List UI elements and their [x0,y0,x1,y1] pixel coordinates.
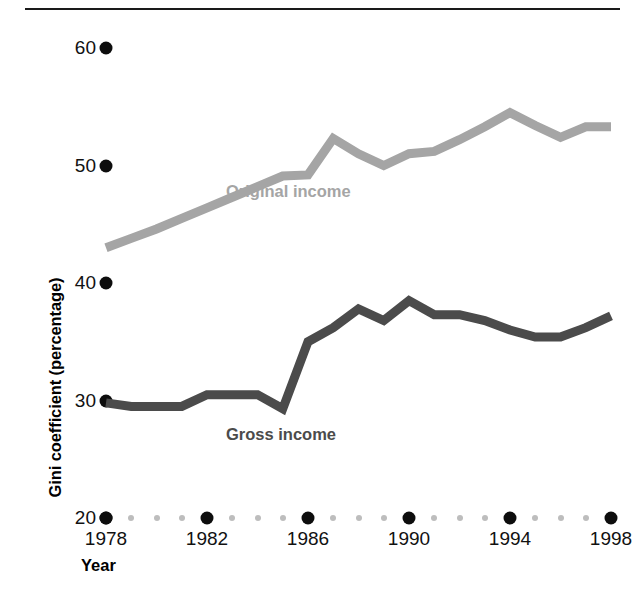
x-tick-label-1978: 1978 [66,528,146,550]
x-minor-dot-1988 [356,515,362,521]
x-tick-dot-1982 [201,512,214,525]
series-line-gross-income [106,301,611,409]
plot-area [0,0,632,598]
x-tick-label-1982: 1982 [167,528,247,550]
x-minor-dot-1993 [482,515,488,521]
x-tick-label-1986: 1986 [268,528,348,550]
x-tick-dot-1978 [100,512,113,525]
x-tick-label-1998: 1998 [571,528,632,550]
x-axis-title: Year [81,556,116,575]
x-minor-dot-1992 [457,515,463,521]
x-minor-dot-1983 [229,515,235,521]
x-tick-label-1990: 1990 [369,528,449,550]
x-minor-dot-1996 [558,515,564,521]
x-tick-dot-1990 [403,512,416,525]
chart-figure: Gini coefficient (percentage) 6050403020… [0,0,632,598]
x-minor-dot-1987 [330,515,336,521]
x-minor-dot-1989 [381,515,387,521]
series-label-gross-income: Gross income [226,425,336,444]
series-line-original-income [106,113,611,248]
x-tick-dot-1998 [605,512,618,525]
x-minor-dot-1995 [532,515,538,521]
x-minor-dot-1984 [255,515,261,521]
x-tick-label-1994: 1994 [470,528,550,550]
x-minor-dot-1980 [154,515,160,521]
x-tick-dot-1986 [302,512,315,525]
x-minor-dot-1979 [128,515,134,521]
x-minor-dot-1997 [583,515,589,521]
x-tick-dot-1994 [504,512,517,525]
series-label-original-income: Original income [226,182,351,201]
x-minor-dot-1991 [431,515,437,521]
x-minor-dot-1985 [280,515,286,521]
x-minor-dot-1981 [179,515,185,521]
